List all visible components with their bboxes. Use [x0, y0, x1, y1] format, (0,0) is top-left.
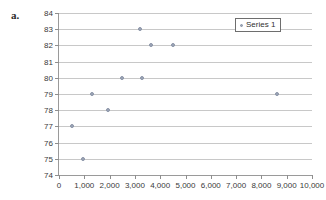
data-point: [81, 157, 85, 161]
data-point: [138, 27, 142, 31]
x-axis-tick-label: 3,000: [125, 181, 145, 190]
x-axis-tick-label: 6,000: [201, 181, 221, 190]
y-axis-tick: [55, 29, 59, 30]
x-axis-tick: [236, 175, 237, 179]
y-axis-tick-label: 79: [44, 90, 53, 99]
data-point: [171, 43, 175, 47]
y-axis-tick: [55, 110, 59, 111]
y-axis-tick-label: 82: [44, 41, 53, 50]
y-axis-tick-label: 81: [44, 57, 53, 66]
data-point: [120, 76, 124, 80]
x-axis-tick: [211, 175, 212, 179]
x-axis-tick-label: 9,000: [277, 181, 297, 190]
x-axis-tick: [261, 175, 262, 179]
plot-area: 7475767778798081828384 01,0002,0003,0004…: [58, 13, 312, 176]
x-axis-tick-label: 2,000: [100, 181, 120, 190]
data-point: [70, 124, 74, 128]
x-axis-tick-label: 8,000: [251, 181, 271, 190]
figure-label: a.: [11, 9, 19, 21]
chart-screenshot: a. 7475767778798081828384 01,0002,0003,0…: [0, 0, 326, 200]
gridline: [59, 62, 312, 63]
y-axis-tick: [55, 159, 59, 160]
y-axis-tick-label: 76: [44, 138, 53, 147]
y-axis-tick-label: 77: [44, 122, 53, 131]
legend-marker-icon: [240, 24, 243, 27]
data-point: [140, 76, 144, 80]
y-axis-tick: [55, 143, 59, 144]
gridline: [59, 78, 312, 79]
gridline: [59, 110, 312, 111]
x-axis-tick-label: 5,000: [175, 181, 195, 190]
y-axis-tick-label: 78: [44, 106, 53, 115]
x-axis-tick-label: 0: [57, 181, 61, 190]
gridline: [59, 13, 312, 14]
y-axis-tick-label: 74: [44, 171, 53, 180]
y-axis-tick-label: 83: [44, 25, 53, 34]
x-axis-tick: [59, 175, 60, 179]
y-axis-tick: [55, 126, 59, 127]
x-axis-tick: [160, 175, 161, 179]
gridline: [59, 143, 312, 144]
x-axis-tick: [135, 175, 136, 179]
x-axis-tick-label: 10,000: [300, 181, 324, 190]
gridline: [59, 45, 312, 46]
y-axis-tick-label: 80: [44, 73, 53, 82]
y-axis-tick: [55, 94, 59, 95]
y-axis-tick-label: 75: [44, 154, 53, 163]
x-axis-tick: [84, 175, 85, 179]
x-axis-tick-label: 7,000: [226, 181, 246, 190]
gridline: [59, 126, 312, 127]
gridline: [59, 159, 312, 160]
legend: Series 1: [235, 18, 281, 32]
x-axis-tick-label: 4,000: [150, 181, 170, 190]
x-axis-tick: [110, 175, 111, 179]
data-point: [275, 92, 279, 96]
data-point: [90, 92, 94, 96]
y-axis-tick: [55, 78, 59, 79]
y-axis-tick-label: 84: [44, 9, 53, 18]
x-axis-tick: [312, 175, 313, 179]
data-point: [149, 43, 153, 47]
data-point: [106, 108, 110, 112]
x-axis-tick: [186, 175, 187, 179]
y-axis-tick: [55, 13, 59, 14]
x-axis-tick-label: 1,000: [74, 181, 94, 190]
y-axis-tick: [55, 62, 59, 63]
y-axis-tick: [55, 45, 59, 46]
legend-entry-label: Series 1: [246, 21, 275, 29]
x-axis-tick: [287, 175, 288, 179]
